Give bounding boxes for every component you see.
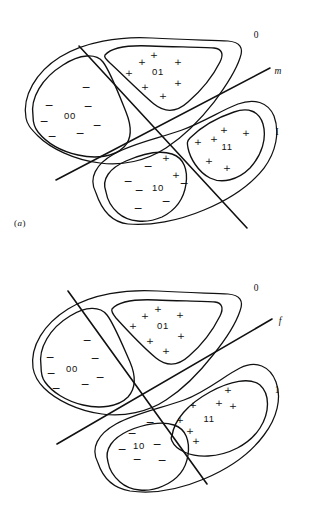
sample-minus: −	[45, 351, 54, 364]
panel-caption-a: (a)	[14, 218, 26, 228]
sample-minus: −	[152, 438, 161, 451]
sample-minus: −	[95, 371, 104, 384]
sample-minus: −	[161, 195, 170, 208]
sample-plus: +	[174, 56, 182, 67]
sample-minus: −	[82, 334, 91, 347]
sample-minus: −	[39, 115, 48, 128]
sample-plus: +	[162, 345, 170, 356]
sample-plus: +	[154, 303, 162, 314]
caption-a-close: )	[23, 218, 27, 228]
sample-plus: +	[192, 435, 200, 446]
sample-plus: +	[174, 77, 182, 88]
sample-plus: +	[205, 155, 213, 166]
sample-minus: −	[81, 81, 90, 94]
region-label-01: 01	[157, 320, 169, 331]
sample-plus: +	[224, 384, 232, 395]
sample-minus: −	[127, 427, 136, 440]
region-label-10: 10	[133, 440, 145, 451]
sample-minus: −	[44, 99, 53, 112]
class-label-top: 0	[254, 30, 259, 40]
sample-plus: +	[129, 320, 137, 331]
region-label-11: 11	[203, 413, 214, 424]
sample-minus: −	[145, 416, 154, 429]
line-label-f: f	[279, 316, 283, 326]
sample-plus: +	[159, 90, 167, 101]
sample-minus: −	[46, 367, 55, 380]
sample-minus: −	[132, 453, 141, 466]
sample-plus: +	[146, 335, 154, 346]
region-label-00: 00	[64, 110, 76, 121]
class-label-bottom: 1	[275, 385, 280, 395]
sample-minus: −	[133, 202, 142, 215]
sample-minus: −	[92, 119, 101, 132]
sample-minus: −	[179, 177, 188, 190]
sample-plus: +	[141, 81, 149, 92]
contour-region-11	[171, 381, 267, 456]
panel-b-drawing: − − − − − − − 00 + + + + + + + 01 − − − …	[0, 258, 310, 516]
region-label-00: 00	[66, 363, 78, 374]
sample-plus: +	[189, 399, 197, 410]
contour-region-10	[107, 423, 188, 490]
panel-b: − − − − − − − 00 + + + + + + + 01 − − − …	[0, 258, 310, 516]
sample-plus: +	[150, 49, 158, 60]
sample-minus: −	[134, 184, 143, 197]
sample-plus: +	[176, 309, 184, 320]
sample-minus: −	[83, 100, 92, 113]
sample-minus: −	[75, 127, 84, 140]
sample-plus: +	[177, 330, 185, 341]
sample-plus: +	[215, 397, 223, 408]
sample-plus: +	[223, 162, 231, 173]
sample-minus: −	[143, 160, 152, 173]
sample-plus: +	[220, 124, 228, 135]
sample-minus: −	[80, 378, 89, 391]
sample-minus: −	[123, 175, 132, 188]
sample-plus: +	[141, 310, 149, 321]
class-label-top: 0	[254, 283, 259, 293]
sample-minus: −	[157, 454, 166, 467]
sample-plus: +	[125, 67, 133, 78]
contour-outer-upper-left	[33, 291, 242, 415]
sample-plus: +	[229, 400, 237, 411]
class-label-bottom: I	[275, 127, 278, 137]
sample-plus: +	[210, 133, 218, 144]
sample-plus: +	[138, 56, 146, 67]
sample-minus: −	[117, 443, 126, 456]
figure-root: − − − − − − − 00 + + + + + + + 01 + − + …	[0, 0, 310, 516]
sample-plus-outlier: +	[162, 152, 170, 163]
sample-minus: −	[47, 130, 56, 143]
panel-a: − − − − − − − 00 + + + + + + + 01 + − + …	[0, 0, 310, 258]
region-label-11: 11	[221, 141, 232, 152]
line-label-m: m	[275, 66, 282, 76]
sample-minus: −	[90, 352, 99, 365]
region-label-01: 01	[152, 66, 164, 77]
sample-plus: +	[194, 136, 202, 147]
sample-plus: +	[242, 127, 250, 138]
region-label-10: 10	[152, 182, 164, 193]
sample-minus: −	[51, 382, 60, 395]
sample-plus: +	[176, 414, 184, 425]
panel-a-drawing: − − − − − − − 00 + + + + + + + 01 + − + …	[0, 0, 310, 258]
contour-outer-lower-right	[93, 101, 277, 224]
